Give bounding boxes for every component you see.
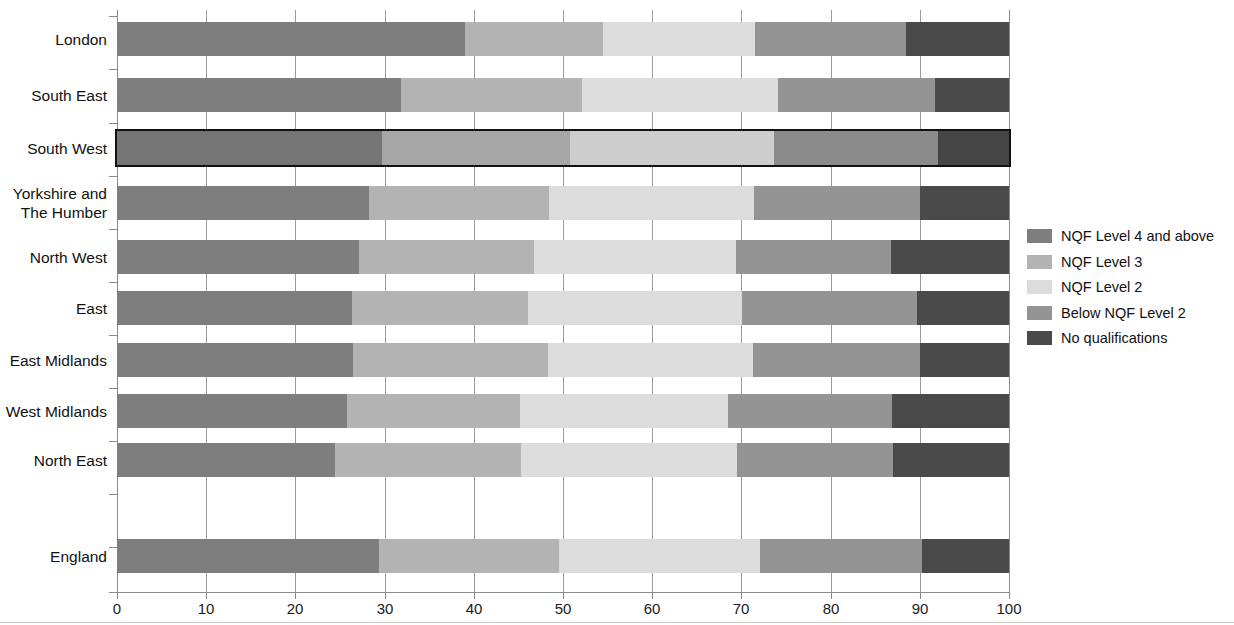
legend-label: NQF Level 3: [1061, 254, 1142, 270]
legend-item[interactable]: No qualifications: [1027, 330, 1232, 346]
y-tick: [109, 494, 117, 495]
x-tick: [652, 592, 653, 599]
bar-segment: [774, 131, 938, 165]
bar-row: [117, 539, 1009, 573]
bar-row: [117, 240, 1009, 274]
bar-row: [117, 186, 1009, 220]
gridline: [1009, 10, 1010, 592]
bar-segment: [335, 443, 521, 477]
bar-segment: [548, 343, 753, 377]
bar-segment: [559, 539, 761, 573]
plot-area: [117, 10, 1009, 592]
x-tick: [831, 592, 832, 599]
bar-row: [117, 78, 1009, 112]
bar-segment: [736, 240, 891, 274]
bar-row: [117, 291, 1009, 325]
x-tick: [563, 592, 564, 599]
legend-item[interactable]: Below NQF Level 2: [1027, 305, 1232, 321]
x-tick: [206, 592, 207, 599]
x-tick-label: 40: [444, 600, 504, 617]
x-tick: [385, 592, 386, 599]
y-tick: [109, 229, 117, 230]
y-tick: [109, 69, 117, 70]
bar-segment: [754, 186, 920, 220]
y-tick: [109, 547, 117, 548]
bar-segment: [117, 539, 379, 573]
legend-swatch: [1027, 280, 1052, 294]
bar-segment: [528, 291, 742, 325]
category-label: London: [55, 30, 107, 49]
bar-segment: [755, 22, 906, 56]
x-tick: [1009, 592, 1010, 599]
bar-segment: [465, 22, 603, 56]
x-tick-label: 0: [87, 600, 147, 617]
x-tick: [295, 592, 296, 599]
x-tick-label: 50: [533, 600, 593, 617]
bar-row: [117, 22, 1009, 56]
bar-segment: [117, 394, 347, 428]
legend-label: Below NQF Level 2: [1061, 305, 1186, 321]
category-label: West Midlands: [6, 402, 107, 421]
category-label: South West: [27, 139, 107, 158]
bar-segment: [382, 131, 570, 165]
stacked-bar-chart: 0102030405060708090100 LondonSouth EastS…: [0, 0, 1234, 625]
bar-segment: [728, 394, 892, 428]
bar-segment: [353, 343, 547, 377]
y-tick: [109, 16, 117, 17]
legend-swatch: [1027, 306, 1052, 320]
bar-segment: [742, 291, 917, 325]
category-label: North West: [30, 248, 107, 267]
bar-segment: [359, 240, 535, 274]
bar-segment: [352, 291, 529, 325]
bar-segment: [582, 78, 778, 112]
bar-segment: [117, 78, 401, 112]
category-label: North East: [34, 451, 107, 470]
x-tick-label: 30: [355, 600, 415, 617]
bar-row: [117, 131, 1009, 165]
category-label: East Midlands: [10, 351, 107, 370]
bar-segment: [534, 240, 736, 274]
category-label: East: [76, 299, 107, 318]
x-tick: [474, 592, 475, 599]
footer-rule: [0, 622, 1234, 623]
bar-segment: [920, 343, 1009, 377]
bar-row: [117, 343, 1009, 377]
legend-item[interactable]: NQF Level 2: [1027, 279, 1232, 295]
bar-segment: [760, 539, 921, 573]
y-tick: [109, 592, 117, 593]
y-tick: [109, 176, 117, 177]
bar-segment: [117, 240, 359, 274]
bar-segment: [893, 443, 1009, 477]
legend-label: NQF Level 2: [1061, 279, 1142, 295]
bar-segment: [920, 186, 1009, 220]
y-tick: [109, 335, 117, 336]
bar-segment: [737, 443, 893, 477]
legend-label: No qualifications: [1061, 330, 1167, 346]
x-tick: [741, 592, 742, 599]
y-tick: [109, 123, 117, 124]
bar-segment: [549, 186, 754, 220]
bar-segment: [347, 394, 520, 428]
bar-segment: [117, 186, 369, 220]
category-label: Yorkshire andThe Humber: [13, 184, 107, 222]
bar-segment: [117, 131, 382, 165]
category-label: England: [50, 547, 107, 566]
bar-segment: [891, 240, 1009, 274]
bar-segment: [935, 78, 1009, 112]
category-label: South East: [31, 86, 107, 105]
y-tick: [109, 388, 117, 389]
legend-item[interactable]: NQF Level 3: [1027, 254, 1232, 270]
bar-segment: [778, 78, 935, 112]
bar-segment: [603, 22, 755, 56]
legend-item[interactable]: NQF Level 4 and above: [1027, 228, 1232, 244]
x-tick: [920, 592, 921, 599]
bar-row: [117, 443, 1009, 477]
x-tick-label: 100: [979, 600, 1039, 617]
bar-segment: [117, 443, 335, 477]
x-tick: [117, 592, 118, 599]
bar-segment: [892, 394, 1009, 428]
x-tick-label: 10: [176, 600, 236, 617]
bar-segment: [520, 394, 728, 428]
x-tick-label: 90: [890, 600, 950, 617]
bar-segment: [906, 22, 1009, 56]
